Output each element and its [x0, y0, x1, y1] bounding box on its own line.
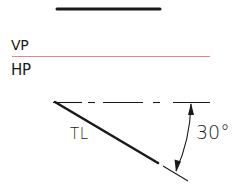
arrowhead-up-icon	[188, 103, 194, 115]
angle-label: 30°	[196, 123, 230, 142]
orthographic-projection-diagram	[0, 0, 243, 190]
vp-label: VP	[11, 38, 28, 52]
arrowhead-down-icon	[175, 160, 182, 173]
hp-label: HP	[11, 63, 31, 78]
extension-line	[163, 166, 188, 181]
true-length-label: TL	[70, 127, 89, 142]
